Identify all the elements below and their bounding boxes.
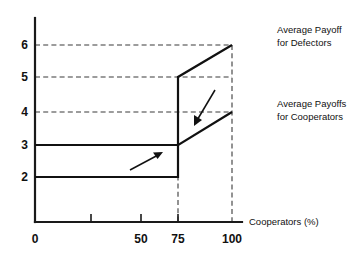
chart-canvas: 6 5 4 3 2 0 50 75 100 Cooperators (%) Av… (0, 0, 355, 254)
annotation-cooperators-line1: Average Payoffs (277, 98, 347, 109)
x-axis-ticks (91, 214, 178, 222)
arrow-to-defector-region (194, 90, 215, 126)
annotation-defectors: Average Payoff for Defectors (277, 24, 342, 48)
arrow-to-cooperator-region (130, 152, 163, 170)
ytick-label-6: 6 (21, 38, 28, 52)
ytick-label-2: 2 (21, 170, 28, 184)
annotation-cooperators: Average Payoffs for Cooperators (277, 98, 347, 122)
xtick-label-0: 0 (32, 232, 39, 246)
ytick-label-4: 4 (21, 105, 28, 119)
xtick-label-50: 50 (134, 232, 148, 246)
ytick-label-5: 5 (21, 70, 28, 84)
gridlines-horizontal (35, 45, 232, 112)
xtick-label-100: 100 (222, 232, 242, 246)
y-axis-tick-labels: 6 5 4 3 2 (21, 38, 28, 184)
axes (35, 18, 242, 222)
xtick-label-75: 75 (171, 232, 185, 246)
annotation-defectors-line1: Average Payoff (277, 24, 342, 35)
x-axis-tick-labels: 0 50 75 100 (32, 232, 243, 246)
ytick-label-3: 3 (21, 138, 28, 152)
x-axis-title: Cooperators (%) (249, 216, 319, 227)
payoff-chart: 6 5 4 3 2 0 50 75 100 Cooperators (%) Av… (0, 0, 355, 254)
annotation-defectors-line2: for Defectors (277, 37, 332, 48)
annotation-cooperators-line2: for Cooperators (277, 111, 343, 122)
